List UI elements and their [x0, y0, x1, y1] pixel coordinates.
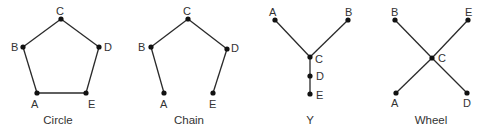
node-label: E [209, 98, 216, 110]
node-label: B [11, 41, 18, 53]
node-c [185, 16, 190, 21]
edge-a-c [275, 20, 310, 57]
node-b [20, 44, 25, 49]
node-e [307, 91, 312, 96]
node-e [83, 90, 88, 95]
node-b [345, 17, 350, 22]
node-label: C [183, 5, 191, 17]
edge-a-b [151, 47, 164, 93]
node-label: A [160, 98, 168, 110]
network-wheel: ABCDEWheel [391, 6, 472, 126]
node-label: D [316, 70, 324, 82]
node-b [148, 44, 153, 49]
node-d [307, 73, 312, 78]
node-d [464, 90, 469, 95]
node-c [429, 55, 434, 60]
network-circle: ABCDECircle [11, 5, 112, 126]
edge-b-c [23, 19, 61, 47]
node-d [224, 46, 229, 51]
node-label: A [269, 6, 277, 18]
diagram-title: Y [306, 114, 314, 126]
node-a [34, 90, 39, 95]
node-label: B [391, 6, 398, 18]
node-label: C [56, 5, 64, 17]
node-label: E [465, 6, 472, 18]
node-a [272, 17, 277, 22]
node-a [161, 90, 166, 95]
communication-networks-diagram: ABCDECircleABCDEChainABCDEYABCDEWheel [0, 0, 485, 132]
edge-c-d [61, 19, 99, 47]
edge-b-c [395, 20, 432, 58]
node-c [307, 54, 312, 59]
node-label: A [391, 97, 399, 109]
node-label: C [438, 52, 446, 64]
edge-d-e [86, 47, 99, 93]
edge-c-d [188, 19, 227, 49]
node-label: D [463, 97, 471, 109]
diagram-title: Circle [43, 114, 72, 126]
diagram-title: Chain [174, 114, 204, 126]
node-d [96, 44, 101, 49]
edge-c-a [396, 58, 432, 93]
node-label: D [231, 42, 239, 54]
network-y: ABCDEY [269, 6, 352, 126]
edge-a-b [23, 47, 37, 93]
edge-b-c [310, 20, 348, 57]
node-label: B [138, 41, 145, 53]
node-label: C [315, 53, 323, 65]
node-b [392, 17, 397, 22]
edge-d-e [213, 49, 227, 93]
node-label: E [316, 89, 323, 101]
node-c [58, 16, 63, 21]
edge-b-c [151, 19, 188, 47]
node-label: B [345, 6, 352, 18]
diagram-title: Wheel [415, 114, 448, 126]
node-e [465, 17, 470, 22]
node-label: A [31, 98, 39, 110]
network-chain: ABCDEChain [138, 5, 239, 126]
node-a [393, 90, 398, 95]
node-label: D [104, 41, 112, 53]
node-label: E [88, 98, 95, 110]
node-e [210, 90, 215, 95]
